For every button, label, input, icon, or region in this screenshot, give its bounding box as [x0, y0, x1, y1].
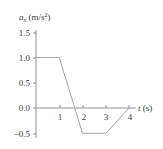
y-axis-label: ax (m/s2) [19, 12, 50, 23]
y-tick-label: −0.5 [14, 129, 31, 139]
x-tick-label: 3 [104, 112, 109, 122]
y-tick-label: 1.5 [19, 28, 31, 38]
x-tick-label: 1 [58, 112, 63, 122]
chart: 1.5 1.0 0.5 0.0 −0.5 1 2 3 4 ax (m/s2) t… [0, 0, 163, 149]
x-tick-label: 2 [82, 112, 87, 122]
y-tick-label: 0.0 [19, 103, 31, 113]
y-ticks [33, 33, 36, 134]
x-ticks [60, 105, 129, 108]
y-tick-label: 0.5 [19, 78, 31, 88]
x-axis-label: t (s) [138, 103, 152, 113]
x-tick-label: 4 [128, 112, 133, 122]
y-tick-label: 1.0 [19, 53, 31, 63]
